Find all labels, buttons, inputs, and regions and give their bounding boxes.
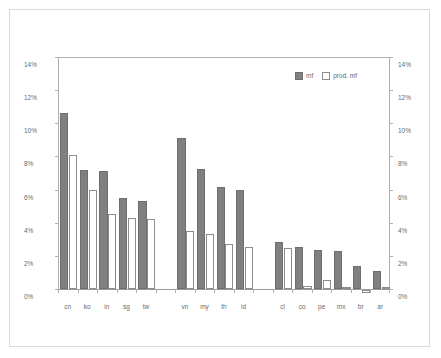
y-axis-left-tick-label: 0% xyxy=(24,285,52,293)
bar-mf xyxy=(217,187,225,289)
x-axis-tick-mark xyxy=(175,289,176,293)
bar-mf xyxy=(80,170,88,289)
x-axis-tick-mark xyxy=(234,289,235,293)
y-axis-right: 0%2%4%6%8%10%12%14% xyxy=(390,10,431,348)
x-axis-tick-mark xyxy=(331,289,332,293)
bar-mf xyxy=(60,113,68,289)
x-axis: cnkoinsgtwvnmythidclcopemxbrar xyxy=(58,289,390,339)
bar-mf xyxy=(119,198,127,289)
y-axis-right-tick-label: 10% xyxy=(398,119,426,127)
x-axis-category-label: id xyxy=(230,304,258,311)
x-axis-category-label: tw xyxy=(132,304,160,311)
y-axis-right-tick-label: 8% xyxy=(398,152,426,160)
x-axis-tick-mark xyxy=(253,289,254,293)
filled-square-icon xyxy=(295,72,303,80)
bar-mf xyxy=(373,271,381,289)
x-axis-tick-mark xyxy=(136,289,137,293)
plot-area xyxy=(58,57,390,289)
bar-mf xyxy=(99,171,107,289)
bar-prod-mf xyxy=(206,234,214,290)
x-axis-tick-mark xyxy=(97,289,98,293)
bar-prod-mf xyxy=(147,219,155,289)
legend-item-prod-mf[interactable]: prod. mf xyxy=(322,72,357,80)
y-axis-left-tick-label: 2% xyxy=(24,252,52,260)
y-axis-right-tick-mark xyxy=(390,57,393,58)
y-axis-left-tick-label: 10% xyxy=(24,119,52,127)
y-axis-right-tick-mark xyxy=(390,289,393,290)
chart-frame: 0%2%4%6%8%10%12%14% 0%2%4%6%8%10%12%14% … xyxy=(9,9,430,347)
bar-prod-mf xyxy=(225,244,233,289)
bar-mf xyxy=(314,250,322,289)
x-axis-tick-mark xyxy=(389,289,390,293)
legend-label-prod-mf: prod. mf xyxy=(333,73,357,80)
y-axis-right-tick-mark xyxy=(390,223,393,224)
bar-mf xyxy=(138,201,146,289)
x-axis-tick-mark xyxy=(78,289,79,293)
y-axis-right-tick-mark xyxy=(390,123,393,124)
y-axis-right-tick-label: 6% xyxy=(398,186,426,194)
y-axis-right-tick-label: 14% xyxy=(398,53,426,61)
y-axis-right-tick-mark xyxy=(390,256,393,257)
bar-prod-mf xyxy=(69,155,77,289)
y-axis-right-tick-mark xyxy=(390,90,393,91)
bar-prod-mf xyxy=(128,218,136,289)
chart-legend: mf prod. mf xyxy=(295,72,357,80)
y-axis-left-tick-label: 6% xyxy=(24,186,52,194)
outlined-square-icon xyxy=(322,72,330,80)
x-axis-tick-mark xyxy=(351,289,352,293)
bar-mf xyxy=(353,266,361,289)
bar-prod-mf xyxy=(186,231,194,289)
legend-label-mf: mf xyxy=(306,73,313,80)
y-axis-left-tick-label: 14% xyxy=(24,53,52,61)
bar-prod-mf xyxy=(89,190,97,289)
bar-mf xyxy=(236,190,244,289)
y-axis-right-tick-label: 0% xyxy=(398,285,426,293)
bar-prod-mf xyxy=(245,247,253,289)
bar-mf xyxy=(334,251,342,289)
x-axis-tick-mark xyxy=(273,289,274,293)
x-axis-tick-mark xyxy=(214,289,215,293)
y-axis-right-tick-label: 4% xyxy=(398,219,426,227)
y-axis-left-tick-label: 12% xyxy=(24,86,52,94)
y-axis-right-tick-mark xyxy=(390,156,393,157)
bar-prod-mf xyxy=(323,280,331,289)
y-axis-left-tick-label: 8% xyxy=(24,152,52,160)
bar-mf xyxy=(177,138,185,289)
x-axis-tick-mark xyxy=(292,289,293,293)
bar-mf xyxy=(197,169,205,289)
x-axis-tick-mark xyxy=(117,289,118,293)
bar-prod-mf xyxy=(108,214,116,289)
x-axis-tick-mark xyxy=(58,289,59,293)
bar-mf xyxy=(275,242,283,289)
y-axis-right-tick-label: 2% xyxy=(398,252,426,260)
legend-item-mf[interactable]: mf xyxy=(295,72,313,80)
bar-prod-mf xyxy=(284,248,292,289)
bar-mf xyxy=(295,247,303,289)
x-axis-tick-mark xyxy=(370,289,371,293)
y-axis-right-tick-mark xyxy=(390,190,393,191)
y-axis-left: 0%2%4%6%8%10%12%14% xyxy=(10,10,58,348)
x-axis-tick-mark xyxy=(312,289,313,293)
x-axis-tick-mark xyxy=(156,289,157,293)
y-axis-right-tick-label: 12% xyxy=(398,86,426,94)
x-axis-category-label: ar xyxy=(366,304,394,311)
x-axis-tick-mark xyxy=(195,289,196,293)
y-axis-left-tick-label: 4% xyxy=(24,219,52,227)
